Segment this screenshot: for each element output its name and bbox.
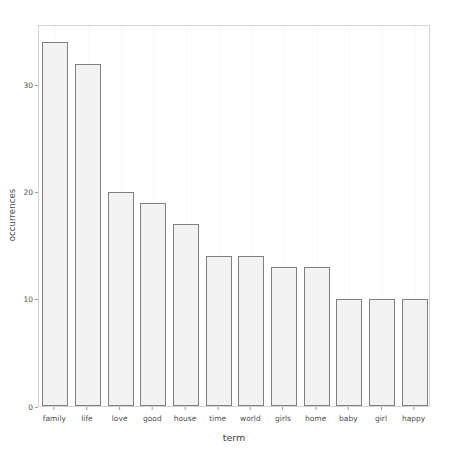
y-axis-tick: 0: [28, 401, 38, 413]
x-axis-tick-label: baby: [339, 414, 358, 423]
x-axis-tick-label: girls: [275, 414, 291, 423]
y-axis-tick: 30: [23, 80, 38, 92]
y-axis-tick-label: 10: [23, 295, 33, 304]
x-axis-tick-label: good: [143, 414, 162, 423]
x-axis-tick: life: [81, 407, 92, 423]
x-axis-tick-label: happy: [402, 414, 425, 423]
bar: [336, 299, 362, 406]
x-axis-tick-label: time: [209, 414, 226, 423]
bar-chart: occurrences 0102030 familylifelovegoodho…: [0, 0, 449, 464]
x-axis-tick-mark: [315, 407, 316, 410]
x-axis-tick-mark: [413, 407, 414, 410]
x-axis-tick: girls: [275, 407, 291, 423]
x-axis-tick-mark: [54, 407, 55, 410]
x-axis-tick: happy: [402, 407, 425, 423]
plot-panel: [38, 25, 430, 407]
x-axis-tick: girl: [375, 407, 387, 423]
bar: [369, 299, 395, 406]
x-axis-tick-mark: [217, 407, 218, 410]
bar: [402, 299, 428, 406]
y-axis-tick: 10: [23, 294, 38, 306]
x-axis-ticks: familylifelovegoodhousetimeworldgirlshom…: [38, 407, 430, 431]
x-axis-tick-label: girl: [375, 414, 387, 423]
x-axis-tick-label: world: [240, 414, 261, 423]
bar: [304, 267, 330, 406]
x-axis-tick-label: house: [174, 414, 197, 423]
bar: [238, 256, 264, 406]
x-axis-tick-mark: [87, 407, 88, 410]
bar: [108, 192, 134, 406]
x-axis-tick-label: life: [81, 414, 92, 423]
x-axis-tick-label: home: [305, 414, 326, 423]
x-axis-tick: love: [112, 407, 128, 423]
bar: [271, 267, 297, 406]
x-axis-tick-mark: [185, 407, 186, 410]
bar: [75, 64, 101, 406]
x-axis-tick: time: [209, 407, 226, 423]
x-axis-tick: home: [305, 407, 326, 423]
x-axis-tick-label: love: [112, 414, 128, 423]
x-axis-tick-mark: [152, 407, 153, 410]
y-axis-tick-label: 0: [28, 403, 33, 412]
bar: [42, 42, 68, 406]
x-axis-tick-mark: [119, 407, 120, 410]
x-axis-tick-mark: [250, 407, 251, 410]
x-axis-tick-mark: [348, 407, 349, 410]
y-axis-tick-label: 30: [23, 81, 33, 90]
bar: [173, 224, 199, 406]
x-axis-title: term: [38, 432, 430, 443]
x-axis-tick-mark: [282, 407, 283, 410]
x-axis-tick-label: family: [43, 414, 66, 423]
y-axis-tick: 20: [23, 187, 38, 199]
bar-series: [39, 26, 429, 406]
x-axis-tick: baby: [339, 407, 358, 423]
x-axis-tick: family: [43, 407, 66, 423]
x-axis-tick: house: [174, 407, 197, 423]
x-axis-tick: good: [143, 407, 162, 423]
y-axis-ticks: 0102030: [20, 25, 38, 407]
bar: [206, 256, 232, 406]
x-axis-tick: world: [240, 407, 261, 423]
x-axis-tick-mark: [380, 407, 381, 410]
y-axis-title-text: occurrences: [7, 189, 17, 242]
y-axis-tick-label: 20: [23, 188, 33, 197]
bar: [140, 203, 166, 406]
